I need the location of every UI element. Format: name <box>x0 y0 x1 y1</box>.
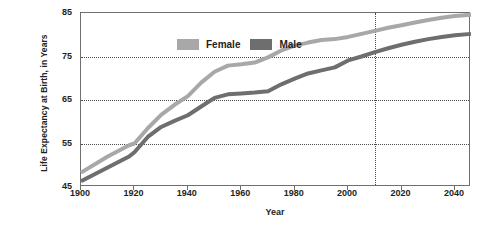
y-tick-65: 65 <box>38 94 72 104</box>
chart-legend: Female Male <box>177 39 302 50</box>
legend-swatch-female <box>177 39 199 50</box>
legend-swatch-male <box>250 39 272 50</box>
plot-area: Female Male <box>80 12 470 186</box>
y-tick-85: 85 <box>38 7 72 17</box>
legend-label-female: Female <box>206 39 240 50</box>
legend-item-male: Male <box>250 39 301 50</box>
y-tick-55: 55 <box>38 138 72 148</box>
legend-label-male: Male <box>279 39 301 50</box>
life-expectancy-chart: Life Expectancy at Birth, in Years 45556… <box>0 0 494 226</box>
y-tick-75: 75 <box>38 51 72 61</box>
series-line-male <box>81 34 471 181</box>
legend-item-female: Female <box>177 39 240 50</box>
x-axis-title: Year <box>80 207 470 217</box>
